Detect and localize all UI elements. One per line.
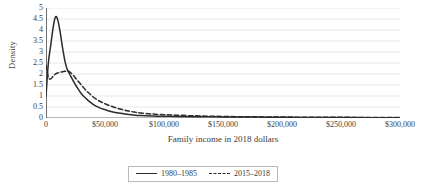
series-line-2 <box>46 65 400 117</box>
legend-label: 1980–1985 <box>161 169 197 178</box>
x-tick-label: $150,000 <box>208 120 238 130</box>
legend-label: 2015–2018 <box>234 169 270 178</box>
density-chart: Density 54.543.532.521.510.50 0$50,000$1… <box>0 0 422 194</box>
y-tick-label: 0 <box>26 114 43 122</box>
chart-legend: 1980–19852015–2018 <box>128 166 278 182</box>
legend-line-swatch-dashed <box>209 173 230 174</box>
y-tick-label: 4.5 <box>26 15 43 23</box>
series-line-1 <box>46 16 400 117</box>
series-lines <box>46 8 400 118</box>
x-tick-label: $200,000 <box>267 120 297 130</box>
y-axis-title: Density <box>7 20 17 90</box>
x-tick-label: $100,000 <box>149 120 179 130</box>
plot-area <box>46 8 400 118</box>
y-axis-tick-labels: 54.543.532.521.510.50 <box>26 8 43 118</box>
legend-entry-2[interactable]: 2015–2018 <box>209 169 270 178</box>
x-tick-label: $50,000 <box>92 120 118 130</box>
y-tick-label: 2.5 <box>26 59 43 67</box>
y-tick-label: 3 <box>26 48 43 56</box>
y-tick-label: 2 <box>26 70 43 78</box>
y-tick-label: 4 <box>26 26 43 34</box>
y-tick-label: 1 <box>26 92 43 100</box>
x-axis-title: Family income in 2018 dollars <box>46 134 400 144</box>
y-tick-label: 1.5 <box>26 81 43 89</box>
x-tick-label: 0 <box>44 120 48 130</box>
x-axis-tick-labels: 0$50,000$100,000$150,000$200,000$250,000… <box>46 120 400 132</box>
y-tick-label: 0.5 <box>26 103 43 111</box>
y-tick-label: 3.5 <box>26 37 43 45</box>
x-tick-label: $300,000 <box>385 120 415 130</box>
legend-entry-1[interactable]: 1980–1985 <box>136 169 197 178</box>
y-tick-label: 5 <box>26 4 43 12</box>
legend-line-swatch-solid <box>136 173 157 174</box>
x-tick-label: $250,000 <box>326 120 356 130</box>
